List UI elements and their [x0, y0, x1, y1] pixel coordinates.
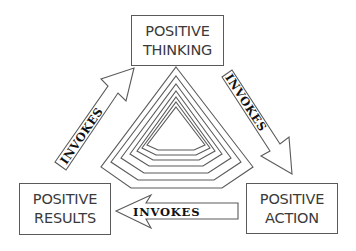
- node-label-line2: ACTION: [265, 209, 319, 228]
- arrow-label: INVOKES: [133, 205, 200, 219]
- cycle-diagram: INVOKES INVOKES INVOKES POSITIVE THINKIN…: [0, 0, 356, 251]
- node-label-line1: POSITIVE: [145, 22, 209, 41]
- node-positive-thinking: POSITIVE THINKING: [131, 15, 224, 66]
- arrow-action-to-results: INVOKES: [116, 195, 238, 228]
- node-positive-action: POSITIVE ACTION: [246, 183, 338, 234]
- node-label-line1: POSITIVE: [260, 190, 324, 209]
- node-label-line2: RESULTS: [34, 209, 96, 228]
- node-positive-results: POSITIVE RESULTS: [19, 183, 111, 235]
- node-label-line1: POSITIVE: [33, 190, 97, 209]
- arrow-thinking-to-action: INVOKES: [222, 70, 292, 174]
- arrow-label: INVOKES: [222, 71, 270, 134]
- arrow-label: INVOKES: [57, 105, 106, 167]
- arrow-results-to-thinking: INVOKES: [55, 68, 134, 170]
- node-label-line2: THINKING: [143, 41, 212, 60]
